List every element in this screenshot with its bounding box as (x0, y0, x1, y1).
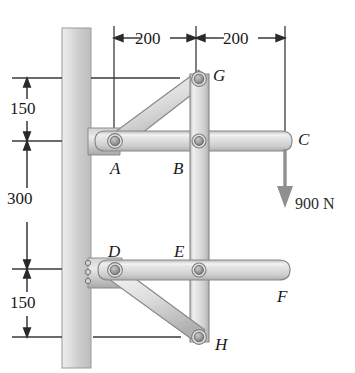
force-label-900n: 900 N (295, 196, 335, 212)
point-label-d: D (108, 243, 120, 260)
member-gbeh (190, 74, 209, 342)
dimension-left-middle: 300 (7, 190, 33, 207)
pin-b (192, 134, 206, 148)
pin-a (108, 134, 123, 149)
point-label-c: C (298, 131, 309, 148)
dimension-left-upper: 150 (10, 100, 36, 117)
dimension-left-lower: 150 (10, 294, 36, 311)
point-label-h: H (215, 336, 227, 353)
point-label-b: B (173, 160, 183, 177)
point-label-e: E (174, 243, 184, 260)
dimension-top-right: 200 (223, 30, 249, 47)
pin-d (108, 263, 123, 278)
diagram-canvas (0, 0, 355, 373)
dimension-top-left: 200 (135, 30, 161, 47)
point-label-a: A (110, 160, 120, 177)
wall-bolts (85, 260, 90, 283)
engineering-diagram: 200 200 150 300 150 A B C D E F G H 900 … (0, 0, 355, 373)
force-arrow-900n (277, 149, 293, 208)
wall-column (62, 28, 91, 368)
pin-h (192, 330, 207, 345)
pin-g (192, 72, 207, 87)
point-label-g: G (213, 67, 225, 84)
pin-e (192, 263, 206, 277)
point-label-f: F (277, 288, 287, 305)
